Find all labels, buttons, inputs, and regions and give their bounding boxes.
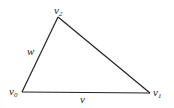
edge-v0-v1 — [22, 92, 150, 93]
vertex-label-v2: v2 — [54, 4, 63, 18]
triangle-diagram: v2 v0 v1 w v — [0, 0, 174, 108]
edge-label-v: v — [80, 93, 85, 105]
vertex-label-v0: v0 — [9, 85, 18, 99]
vertex-label-v1: v1 — [153, 86, 161, 100]
edge-v2-v1 — [58, 17, 150, 93]
edge-label-w: w — [27, 45, 35, 57]
